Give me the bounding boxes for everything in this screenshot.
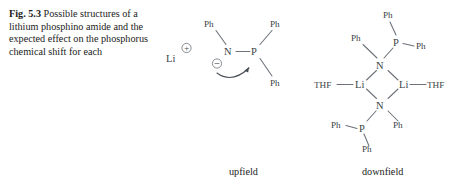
bond-nitrogen-top-lithium-left xyxy=(367,71,377,81)
bond-lithium-left-nitrogen-bottom xyxy=(367,89,377,99)
dimer-phosphorus-top-label: P xyxy=(393,37,399,48)
figure-container: Fig. 5.3 Possible structures of a lithiu… xyxy=(0,0,460,193)
bond-nitrogen-top-lithium-right xyxy=(388,71,398,81)
bond-ph-to-nitrogen xyxy=(216,31,226,45)
bond-lithium-right-nitrogen-bottom xyxy=(388,89,398,99)
dimer-thf-left-label: THF xyxy=(314,80,331,90)
dimer-nitrogen-bottom-label: N xyxy=(376,100,384,111)
bond-phosphorus-to-ph-upper xyxy=(260,31,272,45)
figure-caption: Fig. 5.3 Possible structures of a lithiu… xyxy=(9,8,159,58)
monomer-cation-charge: + xyxy=(184,43,189,53)
bond-phosphorus-to-ph-lower xyxy=(260,59,272,77)
monomer-ph-p-lower-right: Ph xyxy=(270,78,280,88)
bond-ptop-to-ph-top xyxy=(390,22,396,35)
dimer-phosphorus-bottom-label: P xyxy=(359,123,365,134)
dimer-lithium-left-label: Li xyxy=(355,79,364,90)
dimer-ph-ptop-right: Ph xyxy=(416,41,426,51)
dimer-ph-ntop-upper-left: Ph xyxy=(351,33,361,43)
dimer-thf-right-label: THF xyxy=(427,80,444,90)
monomer-structure: Li + Ph N P Ph Ph xyxy=(160,0,320,160)
bond-ptop-to-ph-right xyxy=(403,44,414,47)
monomer-ph-n-upper-left: Ph xyxy=(204,19,214,29)
monomer-ph-p-upper-right: Ph xyxy=(270,19,280,29)
dimer-ph-pbottom-left: Ph xyxy=(331,120,341,130)
monomer-lithium-label: Li xyxy=(166,53,175,64)
bond-ntop-to-ph xyxy=(363,45,377,59)
dimer-lithium-right-label: Li xyxy=(399,79,408,90)
label-downfield: downfield xyxy=(362,166,403,177)
bond-ptop-to-nitrogen-top xyxy=(384,48,393,58)
monomer-phosphorus-label: P xyxy=(251,46,257,57)
monomer-nitrogen-label: N xyxy=(224,46,232,57)
bond-nbottom-to-pbottom xyxy=(367,111,376,121)
dimer-ph-ptop-top: Ph xyxy=(383,10,393,20)
electron-pair-arrow xyxy=(217,68,249,77)
bond-pbottom-to-ph-left xyxy=(346,126,357,129)
figure-number: Fig. 5.3 xyxy=(9,8,41,19)
dimer-nitrogen-top-label: N xyxy=(376,60,384,71)
dimer-structure: Ph P Ph Ph N Li THF Li THF xyxy=(310,0,460,160)
dimer-ph-pbottom-bottom: Ph xyxy=(362,144,372,154)
label-upfield: upfield xyxy=(229,166,258,177)
